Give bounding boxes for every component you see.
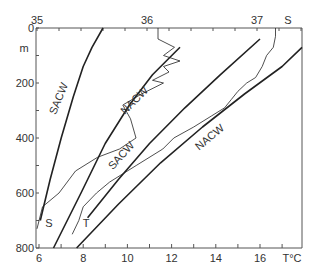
nacw-s--curve xyxy=(54,47,181,248)
data-curves xyxy=(37,28,302,248)
x-axis-label: T°C xyxy=(282,252,301,264)
top-tick-label: 37 xyxy=(251,14,263,26)
y-tick-label: 400 xyxy=(16,132,34,144)
x-tick-label: 14 xyxy=(210,252,222,264)
axis-ticks xyxy=(36,28,301,248)
annotation-sacw: SACW xyxy=(47,80,71,116)
nacw-t--curve xyxy=(77,47,302,248)
x-tick-label: 8 xyxy=(80,252,86,264)
annotation-nacw: NACW xyxy=(118,84,151,117)
x-tick-label: 10 xyxy=(121,252,133,264)
annotation-t: T xyxy=(83,217,90,229)
top-axis-label: S xyxy=(284,14,291,26)
x-tick-label: 6 xyxy=(36,252,42,264)
top-tick-label: 36 xyxy=(141,14,153,26)
x-tick-label: 16 xyxy=(254,252,266,264)
y-tick-label: 0 xyxy=(28,22,34,34)
y-axis-label: m xyxy=(19,42,28,54)
y-tick-label: 800 xyxy=(16,242,34,254)
sacw-t--curve xyxy=(88,39,260,218)
x-tick-label: 12 xyxy=(165,252,177,264)
annotation-s: S xyxy=(45,217,52,229)
curve-annotations: SACWNACWSACWNACWST xyxy=(45,80,226,229)
ts-depth-chart: 6810121416T°C353637S0200400600800m SACWN… xyxy=(0,0,316,276)
y-tick-label: 600 xyxy=(16,187,34,199)
sacw-s--curve xyxy=(40,28,103,221)
annotation-sacw: SACW xyxy=(106,139,137,172)
annotation-nacw: NACW xyxy=(193,121,227,152)
s-profile-curve xyxy=(37,28,180,229)
axis-labels: 6810121416T°C353637S0200400600800m xyxy=(16,14,302,264)
plot-frame xyxy=(36,28,302,248)
y-tick-label: 200 xyxy=(16,77,34,89)
